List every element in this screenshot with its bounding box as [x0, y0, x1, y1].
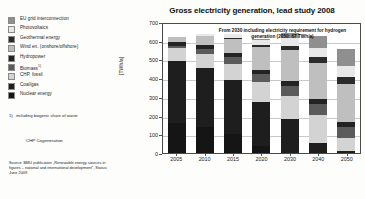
- footnote-text: including biogenic share of waste: [16, 113, 78, 119]
- bar-segment: [309, 63, 327, 99]
- x-axis-tick-mark: [176, 154, 177, 157]
- bar-segment: [337, 138, 355, 151]
- legend-swatch-icon: [8, 17, 15, 24]
- legend-item-label: CHP, fossil: [20, 72, 43, 78]
- bar-column: [196, 24, 214, 153]
- plot-annotation: From 2030 including electricity requirem…: [209, 28, 356, 40]
- legend-item-label: EU grid interconnection: [20, 16, 69, 22]
- bar-segment: [309, 115, 327, 143]
- legend-item: Nuclear energy: [8, 91, 112, 99]
- bar-column: [309, 24, 327, 153]
- x-axis-tick-label: 2005: [167, 156, 185, 162]
- bar-segment: [224, 80, 242, 135]
- bar-segment: [252, 47, 270, 69]
- y-axis-label: [TWh/a]: [118, 57, 124, 75]
- bar-segment: [309, 48, 327, 57]
- legend-item: Wind en. (onshore/offshore): [8, 44, 112, 52]
- bar-segment: [281, 96, 299, 119]
- legend-swatch-icon: [8, 92, 15, 99]
- legend-swatch-icon: [8, 26, 15, 33]
- bar-column: [252, 24, 270, 153]
- footnote-marker: 1): [9, 113, 16, 119]
- legend-item-label: Coal/gas: [20, 82, 39, 88]
- legend-swatch-icon: [8, 36, 15, 43]
- x-axis-tick-label: 2030: [281, 156, 299, 162]
- legend-item: Geothermal energy: [8, 35, 112, 43]
- bar-segment: [309, 143, 327, 153]
- bar-segment: [252, 146, 270, 153]
- legend-item: Hydropower: [8, 54, 112, 62]
- bar-column: [224, 24, 242, 153]
- x-axis-tick-mark: [347, 154, 348, 157]
- bar-column: [281, 24, 299, 153]
- chart-figure: EU grid interconnectionPhotovoltaicsGeot…: [0, 0, 365, 199]
- legend-item-label: Hydropower: [20, 54, 45, 60]
- bar-column: [337, 24, 355, 153]
- bar-segment: [281, 86, 299, 96]
- y-axis-tick-label: 400: [149, 76, 158, 82]
- x-axis-tick-mark: [261, 154, 262, 157]
- x-axis-tick-label: 2040: [309, 156, 327, 162]
- y-axis-tick-mark: [159, 154, 162, 155]
- bar-segment: [196, 54, 214, 68]
- bar-segment: [337, 151, 355, 153]
- x-axis-tick-mark: [318, 154, 319, 157]
- bar-segment: [196, 68, 214, 127]
- plot-frame: From 2030 including electricity requirem…: [162, 23, 361, 154]
- bar-segment: [281, 50, 299, 81]
- bar-segment: [224, 134, 242, 153]
- legend-item-label: Photovoltaics: [20, 25, 48, 31]
- y-axis-tick-label: 700: [149, 20, 158, 26]
- bar-segment: [224, 39, 242, 53]
- bar-segment: [168, 61, 186, 123]
- footnote: 1) including biogenic share of waste: [9, 113, 109, 119]
- legend-item-label: Nuclear energy: [20, 91, 52, 97]
- bar-segment: [337, 66, 355, 76]
- chart-title: Gross electricity generation, lead study…: [143, 6, 361, 15]
- legend-swatch-icon: [8, 45, 15, 52]
- source-note: Source: BMU publication „Renewable energ…: [9, 160, 113, 176]
- legend-item-label: Wind en. (onshore/offshore): [20, 44, 78, 50]
- bar-segment: [337, 84, 355, 121]
- legend-item-label: Geothermal energy: [20, 35, 60, 41]
- legend-item: EU grid interconnection: [8, 16, 112, 24]
- legend-item: Biomass1): [8, 63, 112, 71]
- abbreviation-note: CHP Cogeneration: [26, 138, 63, 143]
- bar-segment: [337, 49, 355, 66]
- x-axis-ticks: 2005201020152020203020402050: [162, 156, 361, 162]
- x-axis-tick-mark: [233, 154, 234, 157]
- y-axis-tick-label: 500: [149, 57, 158, 63]
- y-axis-tick-label: 300: [149, 95, 158, 101]
- legend-swatch-icon: [8, 83, 15, 90]
- x-axis-tick-label: 2020: [252, 156, 270, 162]
- x-axis-tick-label: 2010: [196, 156, 214, 162]
- legend-footnote-marker: 1): [38, 64, 41, 68]
- legend-item: Coal/gas: [8, 82, 112, 90]
- bar-segment: [168, 123, 186, 154]
- bar-segment: [337, 127, 355, 137]
- y-axis-tick-label: 100: [149, 132, 158, 138]
- y-axis-tick-label: 200: [149, 114, 158, 120]
- legend: EU grid interconnectionPhotovoltaicsGeot…: [8, 16, 112, 101]
- legend-swatch-icon: [8, 55, 15, 62]
- legend-item: Photovoltaics: [8, 25, 112, 33]
- legend-item-label: Biomass1): [20, 63, 41, 72]
- legend-item: CHP, fossil: [8, 72, 112, 80]
- bar-segment: [337, 77, 355, 85]
- bar-segment: [252, 102, 270, 145]
- bar-series-group: [163, 24, 360, 153]
- bar-segment: [309, 104, 327, 114]
- legend-swatch-icon: [8, 64, 15, 71]
- y-axis-tick-label: 0: [155, 151, 158, 157]
- x-axis-tick-label: 2015: [224, 156, 242, 162]
- bar-segment: [196, 127, 214, 153]
- y-axis-tick-label: 600: [149, 39, 158, 45]
- x-axis-tick-label: 2050: [338, 156, 356, 162]
- bar-segment: [281, 119, 299, 153]
- bar-column: [168, 24, 186, 153]
- x-axis-tick-mark: [290, 154, 291, 157]
- x-axis-tick-mark: [205, 154, 206, 157]
- bar-segment: [252, 82, 270, 102]
- bar-segment: [168, 48, 186, 61]
- legend-swatch-icon: [8, 73, 15, 80]
